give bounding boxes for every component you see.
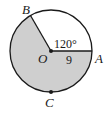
center-point-o	[49, 49, 53, 53]
angle-label: 120°	[54, 37, 77, 51]
radius-label: 9	[66, 53, 72, 67]
label-a: A	[94, 51, 103, 66]
point-c-dot	[49, 90, 53, 94]
label-b: B	[22, 2, 30, 17]
circle-sector-diagram: B A O C 120° 9	[0, 0, 106, 117]
label-c: C	[45, 95, 54, 110]
label-o: O	[38, 51, 48, 66]
